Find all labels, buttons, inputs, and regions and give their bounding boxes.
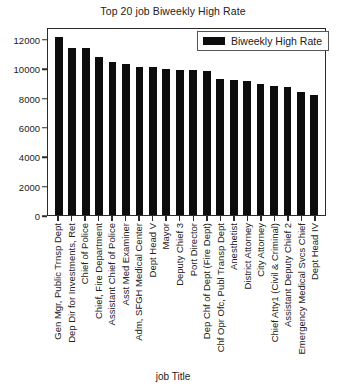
bar <box>68 48 76 215</box>
x-tick-label: Assistant Chief of Police <box>107 223 117 325</box>
x-tick-group: Deputy Chief 3 <box>173 216 187 368</box>
x-tick-mark <box>274 216 276 221</box>
plot-area <box>47 28 326 216</box>
x-tick-group: Dep Dir for Investments, Ret <box>65 216 79 368</box>
bar-slot <box>173 29 186 215</box>
x-tick-mark <box>193 216 195 221</box>
x-tick-group: Anesthetist <box>227 216 241 368</box>
bar <box>82 48 90 215</box>
bar <box>284 87 292 215</box>
x-tick-label: Dep Dir for Investments, Ret <box>67 223 77 343</box>
x-tick-label: Mayor <box>161 223 171 249</box>
y-tick-label: 4000 <box>19 152 40 163</box>
x-axis: Gen Mgr, Public Trnsp DeptDep Dir for In… <box>47 216 326 368</box>
x-tick-mark <box>125 216 127 221</box>
x-tick-group: Chief, Fire Department <box>92 216 106 368</box>
bar-slot <box>160 29 173 215</box>
x-tick-group: Assistant Chief of Police <box>105 216 119 368</box>
bar <box>122 64 130 215</box>
x-tick-label: Anesthetist <box>229 223 239 270</box>
x-tick-mark <box>260 216 262 221</box>
x-tick-label: Dept Head V <box>148 223 158 277</box>
y-tick-label: 2000 <box>19 181 40 192</box>
y-tick-label: 12000 <box>14 34 40 45</box>
bar <box>162 69 170 215</box>
x-tick-mark <box>111 216 113 221</box>
bar-slot <box>79 29 92 215</box>
bar <box>270 86 278 215</box>
x-tick-label: Emergency Medical Svcs Chief <box>297 223 307 354</box>
bar <box>216 79 224 215</box>
y-tick-label: 8000 <box>19 93 40 104</box>
x-tick-label: Asst Med Examiner <box>121 223 131 305</box>
x-tick-group: Chief of Police <box>78 216 92 368</box>
x-tick-group: District Attorney <box>241 216 255 368</box>
x-axis-title: job Title <box>0 371 346 382</box>
bar <box>136 67 144 215</box>
x-tick-label: Deputy Chief 3 <box>175 223 185 286</box>
x-tick-group: Mayor <box>159 216 173 368</box>
x-tick-label: Assistant Deputy Chief 2 <box>283 223 293 327</box>
chart-title: Top 20 job Biweekly High Rate <box>0 5 346 17</box>
bar <box>55 37 63 215</box>
x-tick-mark <box>301 216 303 221</box>
x-tick-label: Chief, Fire Department <box>94 223 104 319</box>
x-tick-group: Assistant Deputy Chief 2 <box>281 216 295 368</box>
bar <box>203 71 211 215</box>
legend: Biweekly High Rate <box>197 31 329 51</box>
bar <box>149 67 157 215</box>
bar-slot <box>254 29 267 215</box>
x-tick-mark <box>84 216 86 221</box>
bar <box>95 57 103 215</box>
bar <box>230 80 238 215</box>
x-tick-mark <box>98 216 100 221</box>
bar-slot <box>281 29 294 215</box>
x-tick-group: Dept Head IV <box>308 216 322 368</box>
x-tick-mark <box>220 216 222 221</box>
bar-slot <box>227 29 240 215</box>
bar-slot <box>200 29 213 215</box>
bar <box>297 92 305 215</box>
bar-slot <box>267 29 280 215</box>
y-tick-label: 10000 <box>14 64 40 75</box>
y-axis: 020004000600080001000012000 <box>0 28 47 216</box>
x-tick-label: Chief Atty1 (Civil & Criminal) <box>270 223 280 342</box>
x-tick-mark <box>287 216 289 221</box>
bar-slot <box>65 29 78 215</box>
x-tick-label: Chief of Police <box>80 223 90 284</box>
legend-label: Biweekly High Rate <box>231 35 322 47</box>
y-tick-label: 0 <box>35 211 40 222</box>
x-tick-label: Dept Head IV <box>310 223 320 280</box>
x-tick-mark <box>247 216 249 221</box>
y-tick-label: 6000 <box>19 122 40 133</box>
bar-slot <box>92 29 105 215</box>
bar <box>109 62 117 215</box>
x-tick-mark <box>314 216 316 221</box>
x-tick-label: District Attorney <box>243 223 253 290</box>
bar <box>310 95 318 215</box>
bar <box>243 81 251 215</box>
x-tick-mark <box>138 216 140 221</box>
x-tick-group: City Attorney <box>254 216 268 368</box>
bar-slot <box>240 29 253 215</box>
x-tick-group: Dep Chf of Dept (Fire Dept) <box>200 216 214 368</box>
x-tick-group: Adm, SFGH Medical Center <box>132 216 146 368</box>
x-tick-mark <box>206 216 208 221</box>
bar-slot <box>146 29 159 215</box>
x-tick-group: Port Director <box>187 216 201 368</box>
x-tick-group: Emergency Medical Svcs Chief <box>295 216 309 368</box>
bar-slot <box>308 29 321 215</box>
x-tick-mark <box>179 216 181 221</box>
bar-slot <box>213 29 226 215</box>
x-tick-label: City Attorney <box>256 223 266 277</box>
x-tick-group: Gen Mgr, Public Trnsp Dept <box>51 216 65 368</box>
x-tick-mark <box>71 216 73 221</box>
x-tick-label: Port Director <box>189 223 199 276</box>
x-tick-label: Gen Mgr, Public Trnsp Dept <box>53 223 63 340</box>
bar-chart: Top 20 job Biweekly High Rate 0200040006… <box>0 0 346 389</box>
x-tick-mark <box>57 216 59 221</box>
x-tick-label: Chf Opr Ofc, Publ Transp Dept <box>216 223 226 352</box>
bar-slot <box>52 29 65 215</box>
legend-swatch-biweekly-high-rate <box>203 37 225 45</box>
bar-series <box>48 29 325 215</box>
